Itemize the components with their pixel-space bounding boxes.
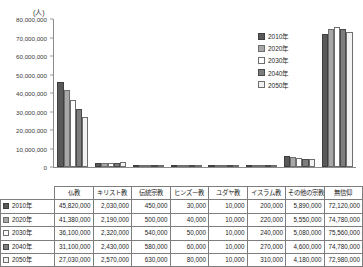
series-label: 2040年	[12, 243, 32, 250]
chart-plot-area: (人) 010,000,00020,000,00030,000,00040,00…	[0, 0, 363, 186]
bar	[271, 165, 277, 167]
table-cell: 500,000	[132, 213, 171, 226]
legend-item-label: 2040年	[268, 68, 289, 78]
y-axis-tick-label: 80,000,000	[16, 16, 47, 23]
table-cell: 5,080,000	[286, 227, 325, 240]
legend-swatch-icon	[258, 69, 265, 76]
bar	[309, 159, 315, 167]
table-cell: 50,000	[170, 227, 209, 240]
table-column-header: 無信仰	[324, 187, 363, 200]
y-axis: 010,000,00020,000,00030,000,00040,000,00…	[0, 19, 50, 167]
table-cell: 2,570,000	[93, 254, 132, 267]
series-label: 2020年	[12, 216, 32, 223]
table-cell: 10,000	[209, 227, 248, 240]
legend-swatch-icon	[258, 45, 265, 52]
y-axis-tick-label: 60,000,000	[16, 53, 47, 60]
table-cell: 27,030,000	[55, 254, 94, 267]
table-column-header: ヒンズー教	[170, 187, 209, 200]
table-cell: 5,890,000	[286, 200, 325, 213]
series-label: 2050年	[12, 256, 32, 263]
table-cell: 220,000	[247, 213, 286, 226]
table-cell: 10,000	[209, 254, 248, 267]
series-swatch-icon	[3, 257, 9, 263]
table-row-header: 2020年	[1, 213, 55, 226]
table-body: 2010年45,820,0002,030,000450,00030,00010,…	[1, 200, 363, 267]
series-swatch-icon	[3, 230, 9, 236]
table-cell: 74,780,000	[324, 213, 363, 226]
table-column-header: その他の宗教	[286, 187, 325, 200]
bar-group	[167, 19, 205, 167]
table-cell: 75,560,000	[324, 227, 363, 240]
y-axis-tick-label: 40,000,000	[16, 90, 47, 97]
table-cell: 200,000	[247, 200, 286, 213]
table-row-header: 2050年	[1, 254, 55, 267]
table-row-header: 2030年	[1, 227, 55, 240]
y-axis-tick-label: 0	[44, 164, 47, 171]
y-axis-tick-label: 10,000,000	[16, 145, 47, 152]
table-cell: 2,030,000	[93, 200, 132, 213]
series-swatch-icon	[3, 217, 9, 223]
bar-groups	[54, 19, 356, 167]
table-cell: 4,600,000	[286, 240, 325, 253]
legend-item-label: 2050年	[268, 80, 289, 90]
table-cell: 2,320,000	[93, 227, 132, 240]
legend-item[interactable]: 2010年	[258, 31, 289, 41]
bar	[195, 165, 201, 167]
legend-swatch-icon	[258, 57, 265, 64]
table-row: 2020年41,380,0002,190,000500,00040,00010,…	[1, 213, 363, 226]
bar	[82, 117, 88, 167]
y-axis-tick-label: 30,000,000	[16, 108, 47, 115]
table-cell: 60,000	[170, 240, 209, 253]
table-row: 2030年36,100,0002,320,000540,00050,00010,…	[1, 227, 363, 240]
bar	[120, 162, 126, 167]
x-axis-line	[53, 167, 356, 168]
table-cell: 41,380,000	[55, 213, 94, 226]
y-axis-tick-label: 20,000,000	[16, 127, 47, 134]
y-axis-tick-label: 70,000,000	[16, 34, 47, 41]
table-cell: 2,190,000	[93, 213, 132, 226]
bar	[158, 165, 164, 167]
series-swatch-icon	[3, 203, 9, 209]
table-row: 2010年45,820,0002,030,000450,00030,00010,…	[1, 200, 363, 213]
bar	[233, 165, 239, 167]
table-column-header: 仏教	[55, 187, 94, 200]
legend-swatch-icon	[258, 33, 265, 40]
table-cell: 630,000	[132, 254, 171, 267]
legend-item[interactable]: 2030年	[258, 55, 289, 65]
table-column-header: 伝統宗教	[132, 187, 171, 200]
table-row: 2050年27,030,0002,570,000630,00080,00010,…	[1, 254, 363, 267]
table-cell: 80,000	[170, 254, 209, 267]
bar-group	[205, 19, 243, 167]
data-table: 仏教キリスト教伝統宗教ヒンズー教ユダヤ教イスラム教その他の宗教無信仰 2010年…	[0, 186, 363, 267]
table-row-header: 2040年	[1, 240, 55, 253]
table-cell: 270,000	[247, 240, 286, 253]
table-cell: 40,000	[170, 213, 209, 226]
table-cell: 540,000	[132, 227, 171, 240]
table-column-header: ユダヤ教	[209, 187, 248, 200]
legend-item-label: 2030年	[268, 55, 289, 65]
chart-legend: 2010年2020年2030年2040年2050年	[258, 31, 289, 90]
legend-swatch-icon	[258, 81, 265, 88]
table-cell: 310,000	[247, 254, 286, 267]
table-column-header: イスラム教	[247, 187, 286, 200]
table-corner-cell	[1, 187, 55, 200]
legend-item-label: 2010年	[268, 31, 289, 41]
bar-group	[318, 19, 356, 167]
table-cell: 31,100,000	[55, 240, 94, 253]
table-cell: 10,000	[209, 213, 248, 226]
table-cell: 450,000	[132, 200, 171, 213]
table-cell: 30,000	[170, 200, 209, 213]
legend-item-label: 2020年	[268, 43, 289, 53]
legend-item[interactable]: 2050年	[258, 80, 289, 90]
legend-item[interactable]: 2040年	[258, 68, 289, 78]
legend-item[interactable]: 2020年	[258, 43, 289, 53]
table-cell: 4,180,000	[286, 254, 325, 267]
bar-group	[54, 19, 92, 167]
table-cell: 240,000	[247, 227, 286, 240]
table-header-row: 仏教キリスト教伝統宗教ヒンズー教ユダヤ教イスラム教その他の宗教無信仰	[1, 187, 363, 200]
table-cell: 10,000	[209, 200, 248, 213]
series-label: 2030年	[12, 229, 32, 236]
table-cell: 2,430,000	[93, 240, 132, 253]
bar-group	[92, 19, 130, 167]
